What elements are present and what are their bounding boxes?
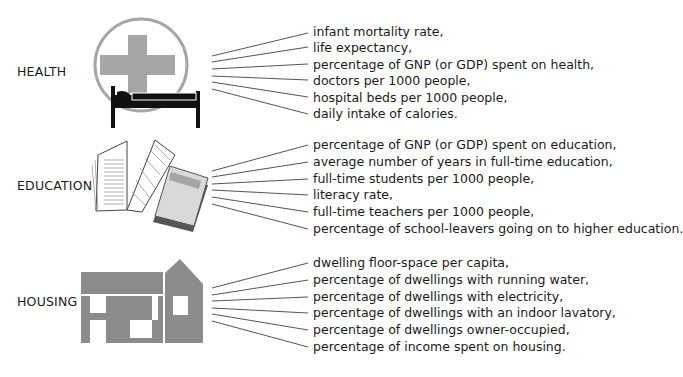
- list-item: hospital beds per 1000 people,: [313, 90, 507, 106]
- house-window-gable: [173, 296, 188, 315]
- connector-line: [212, 64, 308, 69]
- list-item: percentage of dwellings with electricity…: [313, 289, 563, 305]
- blanket: [132, 93, 196, 100]
- education-icon: [92, 140, 208, 232]
- health-icon: [95, 19, 200, 128]
- list-item: percentage of GNP (or GDP) spent on educ…: [313, 137, 617, 153]
- house-roof: [81, 272, 163, 294]
- list-item: percentage of GNP (or GDP) spent on heal…: [313, 57, 594, 73]
- bed-frame: [111, 101, 200, 108]
- cross-horizontal: [100, 55, 175, 75]
- connector-line: [212, 145, 308, 171]
- connector-line: [212, 197, 308, 212]
- list-item: percentage of income spent on housing.: [313, 339, 566, 355]
- connector-line: [212, 76, 308, 80]
- category-label-health: HEALTH: [17, 64, 66, 79]
- house-wall-left: [81, 296, 90, 343]
- list-item: life expectancy,: [313, 40, 412, 56]
- list-item: full-time students per 1000 people,: [313, 171, 534, 187]
- connector-line: [212, 179, 308, 184]
- house-window-lower: [130, 320, 152, 338]
- connector-line: [212, 280, 308, 295]
- connector-line: [212, 162, 308, 177]
- list-item: average number of years in full-time edu…: [313, 154, 613, 170]
- connector-line: [212, 314, 308, 330]
- house-window-upper-right: [152, 296, 158, 320]
- list-item: doctors per 1000 people,: [313, 73, 471, 89]
- connector-line: [212, 308, 308, 313]
- category-label-housing: HOUSING: [17, 294, 77, 309]
- connector-line: [212, 190, 308, 195]
- housing-icon: [81, 259, 203, 343]
- connector-line: [212, 33, 308, 56]
- list-item: percentage of dwellings owner-occupied,: [313, 322, 570, 338]
- connector-line: [212, 89, 308, 114]
- list-item: daily intake of calories.: [313, 106, 458, 122]
- category-label-education: EDUCATION: [17, 178, 92, 193]
- connector-line: [212, 297, 308, 301]
- list-item: infant mortality rate,: [313, 24, 443, 40]
- list-item: percentage of dwellings with running wat…: [313, 272, 589, 288]
- connector-line: [212, 82, 308, 97]
- list-item: full-time teachers per 1000 people,: [313, 204, 534, 220]
- list-item: dwelling floor-space per capita,: [313, 255, 509, 271]
- bed-footboard: [196, 91, 200, 128]
- connector-line: [212, 204, 308, 229]
- list-item: percentage of dwellings with an indoor l…: [313, 305, 616, 321]
- connector-line: [212, 263, 308, 288]
- house-beam: [90, 313, 106, 320]
- list-item: percentage of school-leavers going on to…: [313, 221, 683, 237]
- connector-line: [212, 321, 308, 347]
- list-item: literacy rate,: [313, 187, 393, 203]
- connector-line: [212, 47, 308, 62]
- connector-lines: [212, 33, 308, 347]
